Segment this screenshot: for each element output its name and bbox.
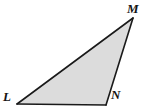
vertex-label-n: N bbox=[111, 88, 120, 101]
triangle-drawing bbox=[0, 0, 148, 107]
edge-N-L bbox=[17, 104, 106, 105]
vertex-label-l: L bbox=[3, 90, 11, 103]
vertex-label-m: M bbox=[127, 2, 139, 15]
geometry-figure-triangle-lmn: M L N bbox=[0, 0, 148, 107]
